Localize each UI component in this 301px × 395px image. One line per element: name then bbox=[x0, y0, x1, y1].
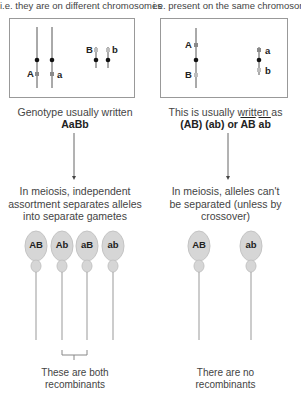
right-chromosome-ab bbox=[194, 28, 199, 88]
right-footer: There are no recombinants bbox=[150, 367, 301, 391]
left-meiosis-line-3: into separate gametes bbox=[0, 210, 150, 223]
right-meiosis-line-1: In meiosis, alleles can't bbox=[150, 185, 301, 198]
right-genotype: (AB) (ab) or AB ab bbox=[150, 118, 301, 131]
recombinant-bracket bbox=[62, 350, 87, 360]
right-meiosis-line-2: be separated (unless by bbox=[150, 198, 301, 211]
left-meiosis-text: In meiosis, independent assortment separ… bbox=[0, 185, 150, 223]
gamete-label-aB: aB bbox=[77, 239, 97, 250]
right-chromosome-ab-lower bbox=[257, 47, 262, 75]
allele-label-B-right: B bbox=[185, 69, 192, 80]
right-footer-line-2: recombinants bbox=[150, 379, 301, 391]
right-meiosis-line-3: crossover) bbox=[150, 210, 301, 223]
right-genotype-overlined-AB: AB bbox=[240, 118, 255, 130]
right-footer-line-1: There are no bbox=[150, 367, 301, 379]
left-chromosome-pair-b bbox=[94, 47, 111, 68]
gamete-label-AB-right: AB bbox=[189, 239, 209, 250]
allele-label-a-left: a bbox=[57, 69, 62, 80]
left-genotype: AaBb bbox=[0, 118, 150, 131]
left-meiosis-line-1: In meiosis, independent bbox=[0, 185, 150, 198]
allele-label-b-right: b bbox=[265, 65, 271, 76]
right-meiosis-text: In meiosis, alleles can't be separated (… bbox=[150, 185, 301, 223]
left-chromosome-pair-a bbox=[35, 27, 55, 88]
gamete-label-Ab: Ab bbox=[52, 239, 72, 250]
gamete-label-AB: AB bbox=[26, 239, 46, 250]
left-footer: These are both recombinants bbox=[0, 367, 150, 391]
allele-label-A-left: A bbox=[27, 68, 34, 79]
right-arrow bbox=[226, 133, 230, 180]
left-footer-line-1: These are both bbox=[0, 367, 150, 379]
left-footer-line-2: recombinants bbox=[0, 379, 150, 391]
right-genotype-caption: This is usually written as bbox=[150, 106, 301, 119]
gamete-label-ab: ab bbox=[103, 239, 123, 250]
left-meiosis-line-2: assortment separates alleles bbox=[0, 198, 150, 211]
allele-label-a-right: a bbox=[265, 45, 270, 56]
allele-label-B-left: B bbox=[86, 44, 93, 55]
right-genotype-overlined-ab: ab bbox=[259, 118, 271, 130]
allele-label-b-left: b bbox=[112, 44, 118, 55]
right-genotype-bracket-form: (AB) (ab) or bbox=[180, 118, 240, 130]
left-arrow bbox=[72, 133, 76, 180]
gamete-label-ab-right: ab bbox=[241, 239, 261, 250]
allele-label-A-right: A bbox=[185, 39, 192, 50]
left-genotype-caption: Genotype usually written bbox=[0, 106, 150, 119]
